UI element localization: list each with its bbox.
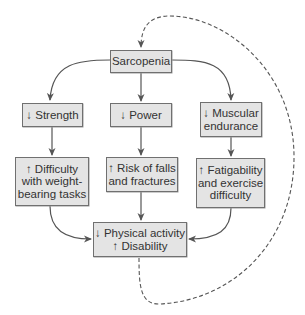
node-risk: ↑ Risk of falls and fractures (106, 157, 178, 192)
node-difficulty: ↑ Difficulty with weight- bearing tasks (15, 157, 89, 206)
node-difficulty-line-3: bearing tasks (18, 188, 86, 201)
node-fatigability-line-2: and exercise (198, 177, 263, 190)
node-sarcopenia-label: Sarcopenia (112, 55, 170, 68)
node-muscular-endurance-line-1: ↓ Muscular (203, 107, 259, 120)
arrow-fatigability-to-outcome (189, 208, 231, 239)
node-risk-line-1: ↑ Risk of falls (108, 162, 176, 175)
node-difficulty-line-1: ↑ Difficulty (26, 163, 78, 176)
sarcopenia-flow-diagram: Sarcopenia ↓ Strength ↓ Power ↓ Muscular… (0, 0, 305, 315)
node-outcome-line-1: ↓ Physical activity (95, 227, 185, 240)
node-difficulty-line-2: with weight- (22, 175, 83, 188)
node-strength-label: ↓ Strength (26, 109, 78, 122)
node-fatigability: ↑ Fatigability and exercise difficulty (196, 158, 265, 208)
node-outcome-line-2: ↑ Disability (113, 240, 168, 253)
node-muscular-endurance: ↓ Muscular endurance (200, 102, 262, 137)
arrow-sarcopenia-to-endurance (172, 60, 231, 100)
arrow-sarcopenia-to-strength (50, 60, 110, 100)
node-muscular-endurance-line-2: endurance (204, 120, 258, 133)
node-risk-line-2: and fractures (108, 175, 175, 188)
node-outcome: ↓ Physical activity ↑ Disability (93, 222, 187, 257)
node-fatigability-line-3: difficulty (210, 189, 251, 202)
arrow-difficulty-to-outcome (50, 206, 91, 239)
node-sarcopenia: Sarcopenia (110, 50, 172, 73)
node-strength: ↓ Strength (22, 103, 83, 127)
node-power: ↓ Power (110, 103, 172, 127)
node-fatigability-line-1: ↑ Fatigability (199, 164, 263, 177)
node-power-label: ↓ Power (120, 109, 162, 122)
